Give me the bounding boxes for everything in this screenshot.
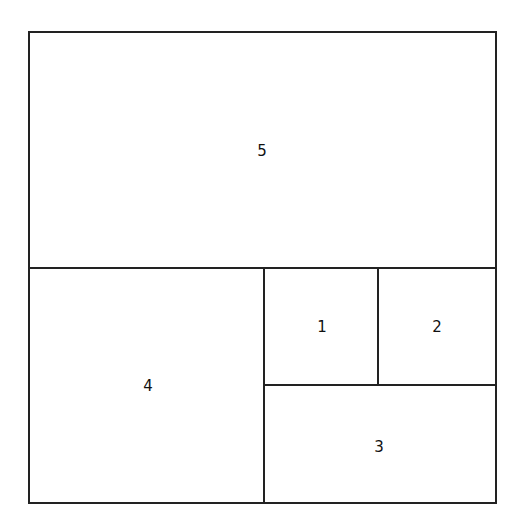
divider-vertical-inner	[377, 267, 379, 386]
region-label-1: 1	[317, 318, 327, 336]
region-label-3: 3	[374, 438, 384, 456]
region-label-4: 4	[143, 377, 153, 395]
divider-horizontal-inner	[263, 384, 497, 386]
region-label-2: 2	[432, 318, 442, 336]
region-label-5: 5	[257, 142, 267, 160]
